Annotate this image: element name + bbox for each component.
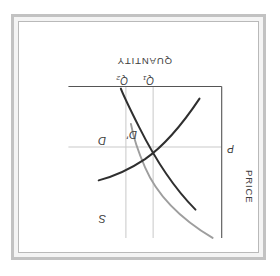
rotated-chart-stage: QUANTITY PRICE Q₁ Q₂ P D D′ S xyxy=(19,22,258,252)
tick-label-q2: Q₂ xyxy=(116,75,128,85)
tick-label-q1: Q₁ xyxy=(143,75,154,85)
quantity-axis-title: QUANTITY xyxy=(117,57,172,67)
tick-label-p: P xyxy=(227,143,234,153)
supply-demand-chart: QUANTITY PRICE Q₁ Q₂ P D D′ S xyxy=(19,22,258,252)
figure-page: QUANTITY PRICE Q₁ Q₂ P D D′ S xyxy=(0,0,280,276)
picture-frame-inner: QUANTITY PRICE Q₁ Q₂ P D D′ S xyxy=(18,21,259,253)
supply-curve-label: S xyxy=(99,213,106,224)
gridlines xyxy=(68,87,221,238)
supply-curve xyxy=(99,99,200,181)
price-axis-title: PRICE xyxy=(245,170,255,204)
picture-frame-outer: QUANTITY PRICE Q₁ Q₂ P D D′ S xyxy=(11,14,266,260)
demand-shift-curve-label: D′ xyxy=(127,129,137,140)
demand-curve-label: D xyxy=(98,135,106,146)
axes xyxy=(68,87,221,238)
